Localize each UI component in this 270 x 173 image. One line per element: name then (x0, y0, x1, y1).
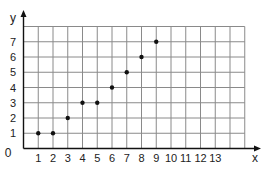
x-tick-label: 5 (94, 152, 100, 164)
x-tick-label: 9 (153, 152, 159, 164)
y-tick-label: 1 (10, 127, 16, 139)
data-point (80, 101, 84, 105)
origin-label: 0 (5, 146, 12, 160)
y-axis-arrow-icon (21, 10, 27, 17)
scatter-chart: 12345678910111213 1234567 x y 0 (0, 0, 270, 173)
x-tick-label: 13 (209, 152, 221, 164)
x-tick-label: 2 (50, 152, 56, 164)
y-tick-label: 6 (10, 51, 16, 63)
x-tick-label: 12 (194, 152, 206, 164)
data-point (36, 131, 40, 135)
y-tick-label: 7 (10, 36, 16, 48)
x-tick-label: 3 (65, 152, 71, 164)
x-tick-label: 4 (79, 152, 85, 164)
y-tick-label: 2 (10, 112, 16, 124)
x-tick-labels: 12345678910111213 (35, 152, 221, 164)
y-tick-label: 4 (10, 82, 16, 94)
y-tick-label: 3 (10, 97, 16, 109)
x-tick-label: 6 (109, 152, 115, 164)
x-tick-label: 11 (180, 152, 191, 164)
data-point (66, 116, 70, 120)
x-tick-label: 1 (35, 152, 41, 164)
y-tick-label: 5 (10, 66, 16, 78)
data-point (95, 101, 99, 105)
data-point (51, 131, 55, 135)
data-point (154, 40, 158, 44)
axes (21, 10, 262, 152)
data-point (110, 85, 114, 89)
y-axis-label: y (10, 11, 16, 25)
grid-lines (24, 27, 245, 149)
y-tick-labels: 1234567 (10, 36, 16, 140)
x-tick-label: 7 (124, 152, 130, 164)
data-point (139, 55, 143, 59)
x-tick-label: 10 (165, 152, 177, 164)
x-axis-label: x (252, 151, 258, 165)
x-tick-label: 8 (138, 152, 144, 164)
data-point (125, 70, 129, 74)
